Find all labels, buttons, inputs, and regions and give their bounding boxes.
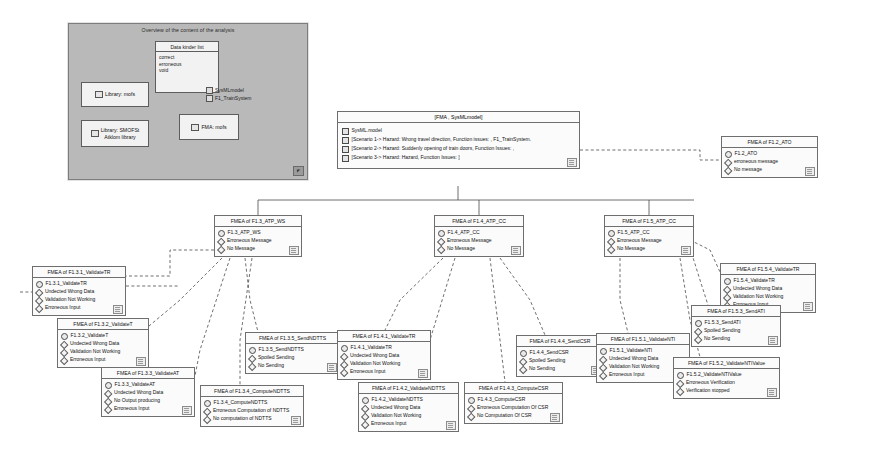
fmea-failure-row: No Message (218, 245, 298, 253)
model-icon (342, 128, 349, 135)
edge-f13-132 (149, 258, 222, 326)
package-icon (191, 124, 199, 131)
fmea-node-body: F1.4.1_ValidateTRUndected Wrong DataVali… (338, 342, 430, 379)
fmea-failure-label: Undected Wrong Data (371, 404, 420, 412)
fmea-block-label: F1.5.3_SendATI (705, 319, 741, 327)
fmea-failure-row: Undected Wrong Data (105, 389, 191, 397)
fmea-failure-label: Undected Wrong Data (350, 352, 399, 360)
fmea-failure-label: No Sending (258, 362, 284, 370)
fmea-node[interactable]: FMEA of F1.3.5_SendNDTTSF1.3.5_SendNDTTS… (245, 332, 340, 374)
block-icon (600, 348, 607, 355)
failure-mode-icon (340, 368, 349, 377)
fmea-block-label: F1.3.5_SendNDTTS (259, 346, 304, 354)
fmea-failure-row: Erroneous Input (341, 368, 427, 376)
fmea-block-row: F1.2_ATO (725, 150, 814, 158)
resize-handle[interactable] (803, 302, 813, 311)
fmea-node[interactable]: FMEA of F1.5.3_SendATIF1.5.3_SendATISpoi… (691, 305, 781, 347)
fmea-failure-label: Erroneous Input (45, 304, 81, 312)
datatype-value: void (159, 67, 215, 74)
root-row: [Scenario 3-> Hazard: Hazard, Function I… (342, 153, 575, 162)
fmea-block-row: F1.5.2_ValidateNTIValue (677, 371, 776, 379)
root-node-fma-sysmlmodel[interactable]: [FMA , SysMLmodel] SysML.model [Scenario… (337, 111, 580, 169)
fmea-failure-label: Erroneous Computation of NDTTS (213, 407, 289, 415)
fmea-failure-row: Erroneous Computation Of CSR (468, 404, 559, 412)
fmea-failure-label: Erroneous Verification (686, 379, 735, 387)
fmea-node[interactable]: FMEA of F1.5.2_ValidateNTIValueF1.5.2_Va… (673, 357, 780, 399)
fmea-failure-label: No Computation Of CSR (477, 412, 532, 420)
fmea-failure-row: Verification stopped (677, 387, 776, 395)
fmea-node-title: FMEA of F1.4_ATP_CC (435, 216, 523, 227)
resize-handle[interactable] (511, 246, 521, 255)
fmea-node[interactable]: FMEA of F1.2_ATOF1.2_ATOerroneous messag… (721, 136, 818, 178)
resize-handle[interactable] (182, 406, 192, 415)
fmea-node[interactable]: FMEA of F1.3.2_ValidateTF1.3.2_ValidateT… (57, 318, 149, 368)
fmea-node[interactable]: FMEA of F1.3.1_ValidateTRF1.3.1_Validate… (32, 266, 126, 316)
overview-model-item[interactable]: SysMLmodel (206, 86, 252, 94)
fmea-failure-row: Undected Wrong Data (341, 352, 427, 360)
fmea-failure-row: Erroneous Message (438, 237, 520, 245)
fmea-block-row: F1.4.1_ValidateTR (341, 344, 427, 352)
fmea-node[interactable]: FMEA of F1.5_ATP_CCF1.5_ATP_CCErroneous … (604, 215, 694, 257)
fmea-node[interactable]: FMEA of F1.4.4_SendCSRF1.4.4_SendCSRSpoi… (516, 335, 604, 377)
resize-handle[interactable] (327, 363, 337, 372)
fmea-block-row: F1.3.5_SendNDTTS (249, 346, 336, 354)
resize-handle[interactable] (805, 167, 815, 176)
fmea-failure-label: Validation Not Working (70, 348, 120, 356)
block-icon (725, 151, 732, 158)
package-library-smofst[interactable]: Library: SMOFSt Atklom library (81, 120, 149, 147)
fmea-failure-label: Undected Wrong Data (45, 288, 94, 296)
fmea-node[interactable]: FMEA of F1.4_ATP_CCF1.4_ATP_CCErroneous … (434, 215, 524, 257)
resize-handle[interactable] (291, 416, 301, 425)
root-row-label: [Scenario 3-> Hazard: Hazard, Function I… (352, 153, 460, 162)
block-icon (61, 333, 68, 340)
fmea-node[interactable]: FMEA of F1.4.1_ValidateTRF1.4.1_Validate… (337, 330, 431, 380)
scenario-icon (342, 146, 349, 153)
failure-mode-icon (217, 245, 226, 254)
resize-handle[interactable] (289, 246, 299, 255)
fmea-failure-label: Erroneous Input (350, 368, 386, 376)
fmea-block-row: F1.4.2_ValidateNDTTS (362, 396, 455, 404)
fmea-failure-row: Erroneous Computation of NDTTS (204, 407, 300, 415)
fmea-block-label: F1.5.2_ValidateNTIValue (687, 371, 742, 379)
package-library-mofs[interactable]: Library: mofs (81, 82, 149, 107)
fmea-node-title: FMEA of F1.5.4_ValidateTR (721, 264, 815, 275)
failure-mode-icon (104, 405, 113, 414)
fmea-failure-row: Undected Wrong Data (36, 288, 122, 296)
resize-handle[interactable] (446, 421, 456, 430)
fmea-node[interactable]: FMEA of F1.4.2_ValidateNDTTSF1.4.2_Valid… (358, 382, 459, 432)
fmea-failure-label: Undected Wrong Data (114, 389, 163, 397)
fmea-node[interactable]: FMEA of F1.3_ATP_WSF1.3_ATP_WSErroneous … (214, 215, 302, 257)
fmea-node-title: FMEA of F1.5.2_ValidateNTIValue (674, 358, 779, 369)
scenario-icon (342, 155, 349, 162)
scenario-icon (342, 137, 349, 144)
fmea-node-body: F1.3.2_ValidateTUndected Wrong DataValid… (58, 330, 148, 367)
fmea-failure-label: Erroneous Input (70, 356, 106, 364)
fmea-node-title: FMEA of F1.5.1_ValidateNTI (597, 334, 689, 345)
root-row: [Scenario 1-> Hazard: Wrong travel direc… (342, 135, 575, 144)
failure-mode-icon (203, 415, 212, 424)
fmea-node[interactable]: FMEA of F1.3.3_ValidateATF1.3.3_Validate… (101, 367, 195, 417)
block-icon (438, 230, 445, 237)
fmea-failure-row: Erroneous Verification (677, 379, 776, 387)
fmea-node-body: F1.3.5_SendNDTTSSpoiled SendingNo Sendin… (246, 344, 339, 373)
overview-model-item[interactable]: F1_TrainSystem (206, 94, 252, 102)
resize-handle[interactable] (567, 158, 577, 167)
fmea-node[interactable]: FMEA of F1.4.3_ComputeCSRF1.4.3_ComputeC… (464, 382, 563, 424)
resize-handle[interactable] (768, 336, 778, 345)
resize-handle[interactable] (113, 305, 123, 314)
fmea-node-body: F1.5_ATP_CCErroneous MessageNo Message (605, 227, 693, 256)
resize-handle[interactable] (767, 388, 777, 397)
failure-mode-icon (599, 371, 608, 380)
package-fma-mofs[interactable]: FMA: mofs (179, 114, 239, 140)
fmea-block-row: F1.5.3_SendATI (695, 319, 777, 327)
diagram-canvas: Overview of the content of the analysis … (0, 0, 872, 451)
resize-handle[interactable] (681, 246, 691, 255)
fmea-node[interactable]: FMEA of F1.3.4_ComputeNDTTSF1.3.4_Comput… (200, 385, 304, 427)
resize-handle[interactable] (136, 357, 146, 366)
fmea-failure-row: Spoiled Sending (249, 354, 336, 362)
fmea-failure-label: Undected Wrong Data (70, 340, 119, 348)
resize-handle[interactable] (418, 369, 428, 378)
resize-handle[interactable] (550, 413, 560, 422)
overview-model-list: SysMLmodel F1_TrainSystem (206, 86, 252, 102)
fmea-failure-label: Erroneous Message (227, 237, 272, 245)
